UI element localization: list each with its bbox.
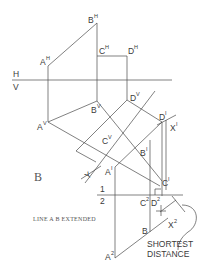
label-b1: BI: [140, 146, 148, 158]
dimension-line: [172, 196, 185, 212]
svg-text:B: B: [142, 226, 148, 236]
svg-text:V: V: [43, 120, 47, 126]
svg-text:I: I: [168, 176, 170, 182]
svg-text:2: 2: [157, 196, 160, 202]
annotation-shortest: SHORTEST: [147, 239, 193, 249]
fold-label-h: H: [13, 69, 19, 79]
label-ch: CH: [99, 44, 109, 56]
svg-text:V: V: [136, 91, 140, 97]
label-bv: BV: [91, 103, 101, 115]
annotation-line-ab-extended: LINE A B EXTENDED: [33, 216, 96, 222]
line-ah-bh: [48, 23, 97, 66]
svg-text:I: I: [176, 121, 178, 127]
fold-label-v: V: [13, 82, 19, 92]
label-cv: CV: [102, 134, 112, 146]
svg-text:I: I: [146, 146, 148, 152]
label-c2: C2: [140, 196, 149, 208]
fold-label-1: 1: [100, 184, 105, 194]
svg-text:H: H: [94, 13, 98, 19]
label-dv: DV: [130, 91, 140, 103]
label-b2: B: [142, 226, 148, 236]
annotation-distance: DISTANCE: [147, 249, 190, 259]
line-a1-d1: [115, 122, 162, 167]
svg-text:2: 2: [111, 250, 114, 256]
label-x2: X2: [168, 218, 177, 230]
svg-text:2: 2: [146, 196, 149, 202]
label-a1: AI: [105, 165, 113, 177]
label-d2: D2: [151, 196, 160, 208]
view-label-b: B: [34, 170, 42, 184]
y-marker: Y: [82, 169, 93, 181]
svg-text:H: H: [105, 44, 109, 50]
svg-text:I: I: [165, 110, 167, 116]
svg-text:V: V: [108, 134, 112, 140]
label-dh: DH: [128, 44, 138, 56]
line-dv-d1: [127, 100, 162, 122]
label-a2: A2: [105, 250, 114, 262]
label-x1: XI: [170, 121, 178, 133]
fold-label-2: 2: [100, 196, 105, 206]
label-av: AV: [37, 120, 47, 132]
svg-text:V: V: [97, 103, 101, 109]
line-av-bv: [48, 101, 97, 122]
svg-text:2: 2: [174, 218, 177, 224]
svg-text:I: I: [111, 165, 113, 171]
label-c1: CI: [162, 176, 170, 188]
svg-text:H: H: [134, 44, 138, 50]
descriptive-geometry-drawing: H V 1 2 AH BH CH DH AV BV CV DV AI BI CI…: [0, 0, 208, 275]
shortest-distance-line: [160, 200, 176, 212]
right-angle-marker: [155, 189, 161, 195]
line-cv-proj: [76, 151, 96, 162]
svg-text:H: H: [46, 55, 50, 61]
